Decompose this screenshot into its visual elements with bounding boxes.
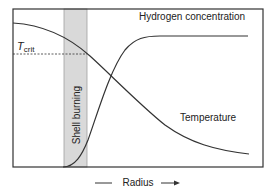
t-crit-main: T <box>17 40 24 52</box>
plot-frame <box>13 9 263 167</box>
radius-axis-label: Radius <box>0 177 276 188</box>
t-crit-sub: crit <box>24 45 35 54</box>
hydrogen-curve <box>63 36 248 167</box>
hydrogen-label: Hydrogen concentration <box>139 11 245 22</box>
temperature-label: Temperature <box>180 112 236 123</box>
diagram-canvas <box>0 0 276 194</box>
temperature-curve <box>13 23 249 154</box>
t-crit-label: Tcrit <box>17 40 34 54</box>
shell-burning-label: Shell burning <box>70 86 81 144</box>
